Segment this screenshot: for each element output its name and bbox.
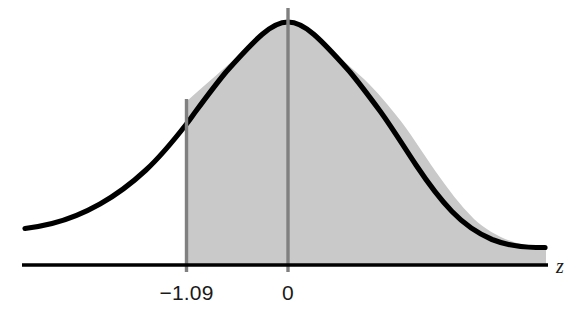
axis-tick-label-minus-1-09: −1.09	[159, 282, 213, 303]
axis-name-label-z: z	[556, 256, 564, 276]
normal-distribution-figure: −1.09 0 z	[0, 0, 580, 318]
normal-curve-plot	[0, 0, 580, 318]
axis-tick-label-zero: 0	[282, 282, 294, 303]
